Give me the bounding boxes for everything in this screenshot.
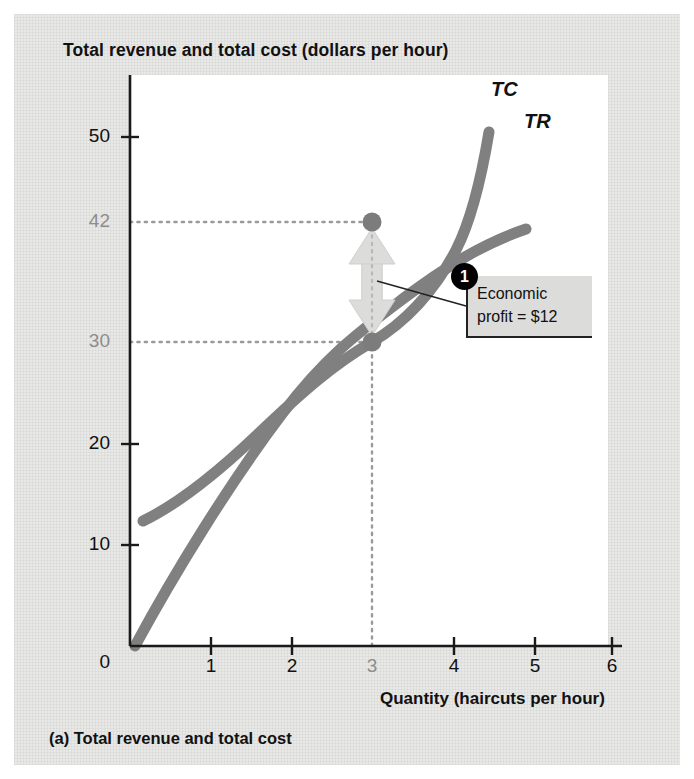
x-tick-label-6: 6 (592, 655, 632, 677)
y-tick-label-0: 0 (60, 651, 110, 673)
tc-curve (143, 132, 489, 521)
callout-badge-1: 1 (451, 263, 478, 290)
chart-canvas (14, 14, 680, 765)
tr-point-marker (363, 213, 382, 232)
y-tick-label-30: 30 (60, 330, 110, 352)
y-tick-label-20: 20 (60, 432, 110, 454)
x-tick-label-2: 2 (272, 655, 312, 677)
callout-line-1: Economic (477, 282, 547, 305)
figure-caption: (a) Total revenue and total cost (49, 729, 292, 748)
y-tick-label-50: 50 (60, 125, 110, 147)
tr-curve-label: TR (524, 110, 551, 133)
figure-panel: Total revenue and total cost (dollars pe… (14, 14, 680, 765)
x-axis-title: Quantity (haircuts per hour) (380, 689, 605, 709)
x-tick-label-1: 1 (191, 655, 231, 677)
x-tick-label-4: 4 (434, 655, 474, 677)
tc-point-marker (363, 333, 382, 352)
y-tick-label-42: 42 (60, 210, 110, 232)
callout-line-2: profit = $12 (477, 305, 558, 328)
economic-profit-callout: Economic profit = $12 (466, 276, 592, 338)
tc-curve-label: TC (491, 78, 518, 101)
y-tick-label-10: 10 (60, 533, 110, 555)
x-tick-label-3: 3 (352, 655, 392, 677)
x-tick-label-5: 5 (515, 655, 555, 677)
